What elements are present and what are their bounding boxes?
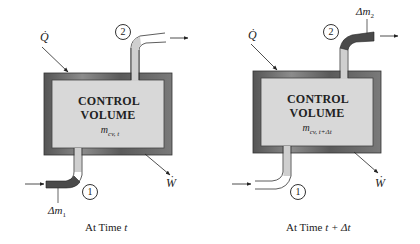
delta-m: Δm [356,5,370,17]
delta-m: Δm [48,204,62,216]
title-line-2: VOLUME [78,108,138,122]
title-line-2: VOLUME [287,106,347,120]
title-line-1: CONTROL [287,92,347,106]
caption-var: t [124,221,127,233]
heat-transfer-label-left: Q̇ [40,30,49,45]
work-label-left: Ẇ [166,176,176,191]
work-label-right: Ẇ [375,176,385,191]
delta-m-subscript: 1 [62,211,66,219]
mass-subscript: cv, t+Δt [310,128,332,136]
mass-element-label-left: Δm1 [48,204,66,219]
mass-subscript: cv, t [108,130,119,138]
state-1-marker-right: 1 [290,184,306,200]
mass-cv-left: mcv, t [90,124,130,138]
title-line-1: CONTROL [78,94,138,108]
delta-m-subscript: 2 [370,12,374,20]
mass-element-label-right: Δm2 [356,5,374,20]
caption-right: At Time t + Δt [286,221,351,233]
mass-cv-right: mcv, t+Δt [292,122,342,136]
control-volume-title-right: CONTROL VOLUME [287,92,347,120]
caption-left: At Time t [85,221,127,233]
heat-transfer-label-right: Q̇ [248,28,257,43]
state-2-marker-right: 2 [323,24,339,40]
caption-prefix: At Time [85,221,124,233]
control-volume-title-left: CONTROL VOLUME [78,94,138,122]
mass-symbol: m [302,122,309,133]
caption-var: t + Δt [325,221,351,233]
state-2-marker-left: 2 [115,24,131,40]
mass-symbol: m [101,124,108,135]
state-1-marker-left: 1 [82,184,98,200]
caption-prefix: At Time [286,221,325,233]
